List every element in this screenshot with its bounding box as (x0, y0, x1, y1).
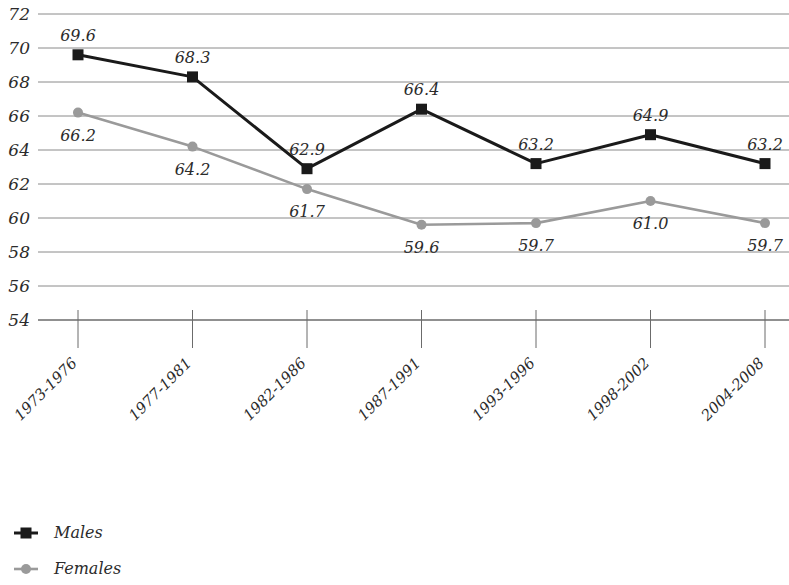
data-point-marker-males (302, 163, 313, 174)
data-point-label-males: 66.4 (404, 80, 440, 99)
line-chart: 72706866646260585654 1973-19761977-19811… (0, 0, 789, 585)
x-axis-category-label: 1973-1976 (11, 354, 82, 425)
legend-label-females: Females (53, 559, 121, 578)
legend-marker-females (21, 564, 31, 574)
legend-label-males: Males (53, 523, 103, 542)
y-axis-tick-label: 58 (8, 242, 30, 262)
data-point-label-males: 63.2 (747, 135, 783, 154)
y-axis-tick-label: 56 (8, 276, 30, 296)
data-point-marker-males (73, 49, 84, 60)
x-axis-category-label: 1993-1996 (469, 354, 540, 425)
data-point-marker-males (416, 104, 427, 115)
data-point-marker-females (646, 196, 656, 206)
data-point-marker-females (760, 218, 770, 228)
y-axis-tick-label: 62 (8, 174, 30, 194)
data-point-marker-females (73, 108, 83, 118)
data-point-marker-males (531, 158, 542, 169)
x-axis-category-label: 2004-2008 (697, 354, 768, 425)
data-point-label-males: 62.9 (289, 140, 325, 159)
y-axis-tick-label: 68 (8, 72, 30, 92)
y-axis-tick-label: 60 (8, 208, 30, 228)
y-axis-tick-label: 54 (8, 310, 30, 330)
gridlines-group (38, 14, 789, 320)
data-point-label-females: 59.7 (747, 236, 783, 255)
legend-marker-males (21, 528, 32, 539)
data-point-label-females: 59.6 (404, 238, 440, 257)
data-point-label-females: 61.7 (289, 202, 325, 221)
data-point-label-males: 68.3 (175, 48, 211, 67)
series-group (73, 49, 771, 230)
y-axis-tick-label: 70 (8, 38, 30, 58)
data-point-label-females: 66.2 (60, 126, 96, 145)
data-point-marker-females (417, 220, 427, 230)
x-axis-category-label: 1987-1991 (354, 354, 424, 424)
data-point-label-females: 64.2 (175, 160, 211, 179)
legend-group: MalesFemales (14, 523, 121, 578)
data-point-marker-males (187, 71, 198, 82)
data-point-label-males: 69.6 (60, 26, 96, 45)
data-point-label-males: 63.2 (518, 135, 554, 154)
data-point-marker-males (760, 158, 771, 169)
data-point-marker-males (645, 129, 656, 140)
data-point-marker-females (302, 184, 312, 194)
x-axis-category-label: 1977-1981 (125, 354, 195, 424)
data-point-marker-females (188, 142, 198, 152)
data-point-marker-females (531, 218, 541, 228)
y-axis-tick-label: 64 (8, 140, 30, 160)
data-point-label-females: 59.7 (518, 236, 554, 255)
x-axis-labels-group: 1973-19761977-19811982-19861987-19911993… (11, 354, 768, 425)
chart-canvas: 72706866646260585654 1973-19761977-19811… (0, 0, 789, 585)
y-axis-labels-group: 72706866646260585654 (8, 4, 30, 330)
x-axis-category-label: 1998-2002 (583, 354, 653, 424)
data-point-label-females: 61.0 (633, 214, 669, 233)
data-point-label-males: 64.9 (633, 106, 669, 125)
x-axis-category-label: 1982-1986 (240, 354, 311, 425)
y-axis-tick-label: 66 (8, 106, 30, 126)
y-axis-tick-label: 72 (8, 4, 30, 24)
x-axis-ticks-group (78, 310, 765, 348)
